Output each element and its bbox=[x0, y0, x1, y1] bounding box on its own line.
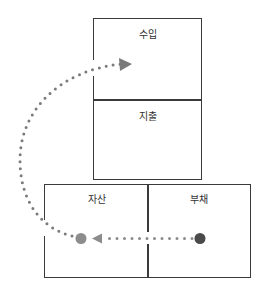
revenue-label: 수입 bbox=[94, 26, 201, 41]
expense-label: 지출 bbox=[94, 108, 201, 123]
revenue-box: 수입 bbox=[93, 18, 202, 101]
liability-box: 부채 bbox=[147, 184, 251, 278]
expense-box: 지출 bbox=[93, 99, 202, 180]
asset-label: 자산 bbox=[45, 191, 148, 206]
asset-box: 자산 bbox=[44, 184, 149, 278]
liability-label: 부채 bbox=[148, 191, 250, 206]
